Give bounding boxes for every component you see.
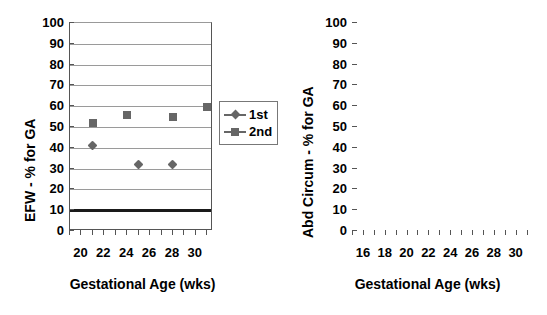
x-axis-tick (450, 230, 451, 235)
data-point-1st (88, 141, 98, 151)
y-axis-tick-label: 40 (333, 141, 347, 154)
gridline (70, 106, 211, 107)
y-axis-tick-label: 80 (333, 58, 347, 71)
data-point-2nd (89, 119, 97, 127)
y-axis-tick-label: 0 (340, 224, 347, 237)
gridline (70, 189, 211, 190)
y-axis-tick-label: 90 (50, 37, 64, 50)
x-axis-tick (206, 230, 207, 235)
x-axis-tick (385, 230, 386, 235)
plot-area-left (69, 22, 212, 230)
data-point-2nd (123, 111, 131, 119)
x-axis-tick (103, 230, 104, 235)
legend-item-1st: 1st (224, 106, 272, 123)
y-axis-tick-label: 80 (50, 58, 64, 71)
y-axis-tick (352, 105, 357, 106)
legend-label-2nd: 2nd (249, 125, 272, 138)
y-axis-tick-label: 70 (333, 78, 347, 91)
x-axis-tick (138, 230, 139, 235)
data-point-2nd (203, 103, 211, 111)
x-axis-tick (439, 230, 440, 235)
legend-marker-square-icon (224, 126, 246, 138)
legend-label-1st: 1st (249, 108, 268, 121)
x-axis-tick (374, 230, 375, 235)
y-axis-tick (69, 147, 74, 148)
y-axis-tick (69, 168, 74, 169)
y-axis-tick-label: 20 (50, 182, 64, 195)
gridline (70, 65, 211, 66)
x-axis-tick (417, 230, 418, 235)
x-axis-tick (161, 230, 162, 235)
y-axis-title-left: EFW - % for GA (22, 119, 38, 222)
y-axis-tick-label: 60 (50, 99, 64, 112)
gridline (70, 44, 211, 45)
y-axis-tick-label: 20 (333, 182, 347, 195)
y-axis-tick (352, 64, 357, 65)
x-axis-tick (461, 230, 462, 235)
x-axis-tick (80, 230, 81, 235)
legend-item-2nd: 2nd (224, 123, 272, 140)
x-axis-tick (396, 230, 397, 235)
y-axis-tick (69, 188, 74, 189)
y-axis-tick (352, 209, 357, 210)
chart-panel-abd-circum: Abd Circum - % for GA Gestational Age (w… (280, 0, 547, 315)
two-panel-scatter-figure: EFW - % for GA Gestational Age (wks) 010… (0, 0, 547, 315)
x-axis-tick (92, 230, 93, 235)
chart-panel-efw: EFW - % for GA Gestational Age (wks) 010… (0, 0, 280, 315)
x-axis-tick (527, 230, 528, 235)
x-axis-tick (172, 230, 173, 235)
x-axis-tick (494, 230, 495, 235)
x-axis-title-right: Gestational Age (wks) (320, 276, 535, 292)
y-axis-tick (69, 105, 74, 106)
y-axis-tick (69, 22, 74, 23)
y-axis-tick-label: 30 (50, 162, 64, 175)
gridline (70, 85, 211, 86)
x-axis-tick (126, 230, 127, 235)
y-axis-tick (69, 209, 74, 210)
y-axis-tick-label: 40 (50, 141, 64, 154)
y-axis-tick (352, 43, 357, 44)
y-axis-tick-label: 100 (325, 16, 347, 29)
y-axis-tick-label: 100 (42, 16, 64, 29)
x-axis-tick-label: 30 (501, 246, 531, 259)
x-axis-tick (183, 230, 184, 235)
x-axis-tick (483, 230, 484, 235)
x-axis-tick-label: 30 (180, 246, 210, 259)
gridline (70, 169, 211, 170)
y-axis-tick-label: 60 (333, 99, 347, 112)
y-axis-tick (69, 126, 74, 127)
x-axis-tick (363, 230, 364, 235)
x-axis-tick (407, 230, 408, 235)
y-axis-tick-label: 30 (333, 162, 347, 175)
y-axis-tick (352, 168, 357, 169)
y-axis-tick-label: 0 (57, 224, 64, 237)
y-axis-tick (352, 147, 357, 148)
x-axis-tick (352, 230, 353, 235)
y-axis-tick (352, 22, 357, 23)
y-axis-tick (69, 64, 74, 65)
x-axis-tick (505, 230, 506, 235)
y-axis-tick (352, 188, 357, 189)
x-axis-tick (428, 230, 429, 235)
x-axis-tick (472, 230, 473, 235)
y-axis-tick-label: 10 (333, 203, 347, 216)
x-axis-tick (69, 230, 70, 235)
data-point-2nd (169, 113, 177, 121)
x-axis-title-left: Gestational Age (wks) (35, 276, 250, 292)
y-axis-tick (69, 43, 74, 44)
y-axis-tick (69, 84, 74, 85)
x-axis-tick (516, 230, 517, 235)
y-axis-tick (352, 84, 357, 85)
y-axis-tick-label: 10 (50, 203, 64, 216)
x-axis-tick (195, 230, 196, 235)
y-axis-tick-label: 70 (50, 78, 64, 91)
legend-marker-diamond-icon (224, 109, 246, 121)
reference-line-10-percent (70, 209, 211, 212)
x-axis-tick (115, 230, 116, 235)
y-axis-tick-label: 90 (333, 37, 347, 50)
legend: 1st 2nd (219, 101, 278, 145)
y-axis-tick-label: 50 (50, 120, 64, 133)
y-axis-title-right: Abd Circum - % for GA (300, 86, 316, 238)
gridline (70, 127, 211, 128)
y-axis-tick-label: 50 (333, 120, 347, 133)
